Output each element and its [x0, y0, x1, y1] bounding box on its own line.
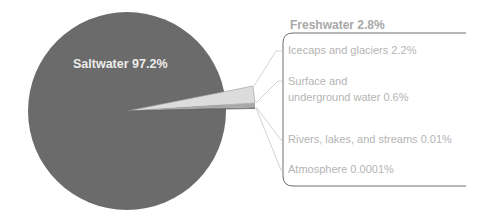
- leader-lines: [254, 51, 282, 170]
- surface-water-label-1: Surface and: [288, 75, 347, 88]
- icecaps-label: Icecaps and glaciers 2.2%: [288, 44, 416, 57]
- pie-chart: [0, 0, 483, 222]
- rivers-label: Rivers, lakes, and streams 0.01%: [288, 133, 452, 146]
- freshwater-title: Freshwater 2.8%: [290, 18, 385, 32]
- surface-water-label-2: underground water 0.6%: [288, 91, 408, 104]
- saltwater-label: Saltwater 97.2%: [73, 57, 168, 71]
- atmosphere-label: Atmosphere 0.0001%: [288, 163, 394, 176]
